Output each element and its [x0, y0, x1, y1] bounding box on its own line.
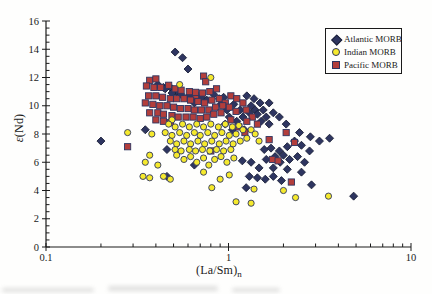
data-point-indian	[192, 148, 198, 154]
data-point-pacific	[159, 94, 165, 100]
data-point-indian	[233, 199, 239, 205]
data-point-pacific	[226, 104, 232, 110]
y-tick-label: 4	[34, 185, 40, 196]
data-point-indian	[172, 124, 178, 130]
data-point-pacific	[142, 100, 148, 106]
data-point-indian	[199, 146, 205, 152]
data-point-indian	[231, 155, 237, 161]
data-point-indian	[140, 173, 146, 179]
x-axis-title: (La/Sm)n	[196, 263, 242, 279]
legend-label-pacific-morb: Pacific MORB	[344, 60, 398, 70]
data-point-pacific	[177, 105, 183, 111]
data-point-indian	[256, 138, 262, 144]
data-point-indian	[208, 74, 214, 80]
x-tick-label: 0.1	[39, 252, 52, 263]
data-point-indian	[188, 154, 194, 160]
y-axis-title-text: (Nd)	[12, 114, 26, 137]
data-point-indian	[195, 138, 201, 144]
data-point-indian	[325, 193, 331, 199]
data-point-pacific	[190, 114, 196, 120]
data-point-pacific	[151, 84, 157, 90]
data-point-pacific	[211, 111, 217, 117]
data-point-indian	[212, 156, 218, 162]
data-point-pacific	[291, 139, 297, 145]
data-point-atlantic	[283, 143, 291, 151]
data-point-indian	[167, 138, 173, 144]
data-point-atlantic	[267, 144, 275, 152]
data-point-pacific	[209, 97, 215, 103]
data-point-pacific	[203, 79, 209, 85]
data-point-pacific	[174, 96, 180, 102]
legend: Atlantic MORBIndian MORBPacific MORB	[325, 28, 402, 74]
data-point-atlantic	[245, 172, 253, 180]
x-axis-title-text: (La/Sm)	[196, 263, 237, 277]
data-point-pacific	[207, 89, 213, 95]
data-point-pacific	[147, 110, 153, 116]
data-point-atlantic	[326, 134, 334, 142]
scan-artifact	[108, 286, 218, 291]
y-tick-label: 10	[29, 100, 40, 111]
data-point-atlantic	[269, 109, 277, 117]
data-point-atlantic	[297, 168, 305, 176]
data-point-pacific	[146, 93, 152, 99]
data-point-pacific	[153, 93, 159, 99]
data-point-pacific	[220, 103, 226, 109]
data-point-indian	[252, 131, 258, 137]
data-point-atlantic	[163, 146, 171, 154]
data-point-indian	[207, 148, 213, 154]
data-point-pacific	[186, 89, 192, 95]
data-point-pacific	[243, 107, 249, 113]
data-point-indian	[174, 152, 180, 158]
x-axis-title-subscript: n	[237, 269, 242, 279]
data-point-pacific	[167, 96, 173, 102]
legend-entry-atlantic-morb: Atlantic MORB	[331, 32, 397, 45]
data-point-indian	[215, 124, 221, 130]
data-point-indian	[228, 146, 234, 152]
data-point-atlantic	[141, 126, 149, 134]
data-point-indian	[222, 121, 228, 127]
data-point-atlantic	[247, 158, 255, 166]
morb-scatter-figure: 02468101214160.1110 ε(Nd) (La/Sm)n Atlan…	[0, 0, 432, 294]
data-point-indian	[160, 173, 166, 179]
data-point-atlantic	[286, 155, 294, 163]
data-point-indian	[212, 132, 218, 138]
data-point-indian	[280, 187, 286, 193]
diamond-marker-icon	[331, 34, 340, 43]
data-point-indian	[205, 129, 211, 135]
data-point-indian	[194, 121, 200, 127]
data-point-atlantic	[97, 137, 105, 145]
data-point-pacific	[178, 87, 184, 93]
circle-marker-shape	[332, 48, 340, 56]
data-point-pacific	[218, 110, 224, 116]
data-point-indian	[200, 169, 206, 175]
data-point-indian	[200, 124, 206, 130]
data-point-pacific	[216, 96, 222, 102]
data-point-atlantic	[275, 113, 283, 121]
data-point-indian	[147, 152, 153, 158]
data-point-indian	[167, 176, 173, 182]
data-point-pacific	[157, 103, 163, 109]
data-point-indian	[233, 131, 239, 137]
legend-label-atlantic-morb: Atlantic MORB	[344, 34, 402, 44]
legend-label-indian-morb: Indian MORB	[344, 47, 396, 57]
data-point-atlantic	[255, 164, 263, 172]
data-point-indian	[125, 129, 131, 135]
data-point-indian	[208, 121, 214, 127]
data-point-atlantic	[294, 153, 302, 161]
y-tick-label: 12	[29, 72, 40, 83]
data-point-pacific	[153, 117, 159, 123]
scan-artifact	[2, 288, 94, 292]
epsilon-symbol: ε	[12, 137, 26, 142]
data-point-atlantic	[306, 133, 314, 141]
data-point-atlantic	[179, 54, 187, 62]
data-point-indian	[206, 162, 212, 168]
data-point-indian	[155, 162, 161, 168]
data-point-pacific	[283, 129, 289, 135]
data-point-atlantic	[171, 48, 179, 56]
data-point-atlantic	[261, 175, 269, 183]
data-point-indian	[186, 124, 192, 130]
data-point-indian	[244, 135, 250, 141]
data-point-atlantic	[350, 192, 358, 200]
data-point-pacific	[195, 98, 201, 104]
data-point-pacific	[233, 108, 239, 114]
